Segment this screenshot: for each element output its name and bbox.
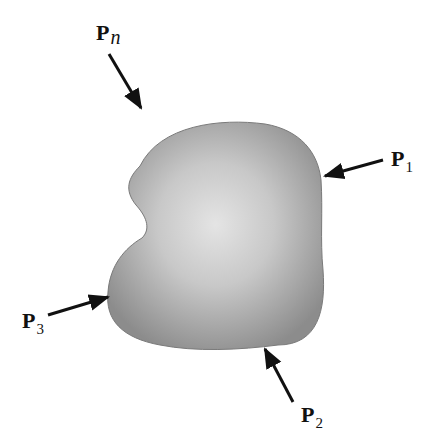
force-symbol: P [301, 402, 314, 427]
force-arrow-pn [109, 54, 141, 108]
force-subscript: 2 [315, 415, 323, 431]
label-force-p3: P3 [22, 310, 44, 332]
body-force-diagram: Pn P1 P2 P3 [0, 0, 430, 448]
force-arrow-p1 [325, 160, 383, 176]
rigid-body-shape [108, 122, 324, 349]
label-force-p2: P2 [301, 404, 323, 426]
label-force-pn: Pn [96, 22, 120, 44]
diagram-graphic [0, 0, 430, 448]
force-symbol: P [96, 20, 109, 45]
force-subscript: n [110, 26, 120, 48]
force-symbol: P [391, 146, 404, 171]
force-subscript: 1 [405, 159, 413, 175]
force-symbol: P [22, 308, 35, 333]
force-arrow-p3 [48, 297, 108, 315]
force-arrow-p2 [265, 349, 293, 402]
force-subscript: 3 [36, 321, 44, 337]
label-force-p1: P1 [391, 148, 413, 170]
